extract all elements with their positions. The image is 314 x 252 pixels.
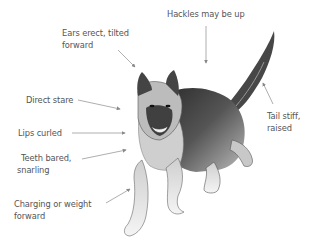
arrow-ears bbox=[118, 50, 135, 67]
label-hackles-text: Hackles may be up bbox=[167, 9, 245, 19]
label-teeth-line2: snarling bbox=[17, 164, 71, 176]
arrow-tail bbox=[263, 83, 273, 104]
label-teeth: Teeth bared, snarling bbox=[21, 152, 71, 176]
arrow-stare bbox=[78, 100, 120, 109]
arrow-charging bbox=[106, 189, 130, 203]
label-lips-text: Lips curled bbox=[18, 128, 62, 138]
arrow-teeth bbox=[82, 150, 126, 159]
label-tail: Tail stiff, raised bbox=[267, 110, 300, 134]
label-lips: Lips curled bbox=[18, 127, 62, 139]
label-ears-line2: forward bbox=[62, 39, 129, 51]
label-tail-line2: raised bbox=[267, 122, 300, 134]
label-charging-line1: Charging or weight bbox=[14, 198, 91, 210]
label-teeth-line1: Teeth bared, bbox=[21, 152, 71, 164]
label-charging: Charging or weight forward bbox=[14, 198, 91, 222]
label-stare: Direct stare bbox=[26, 94, 73, 106]
label-hackles: Hackles may be up bbox=[167, 8, 245, 20]
label-ears-line1: Ears erect, tilted bbox=[62, 27, 129, 39]
label-ears: Ears erect, tilted forward bbox=[62, 27, 129, 51]
aggressive-dog-diagram: Hackles may be up Ears erect, tilted for… bbox=[0, 0, 314, 252]
label-stare-text: Direct stare bbox=[26, 95, 73, 105]
label-tail-line1: Tail stiff, bbox=[267, 110, 300, 122]
label-charging-line2: forward bbox=[14, 210, 91, 222]
